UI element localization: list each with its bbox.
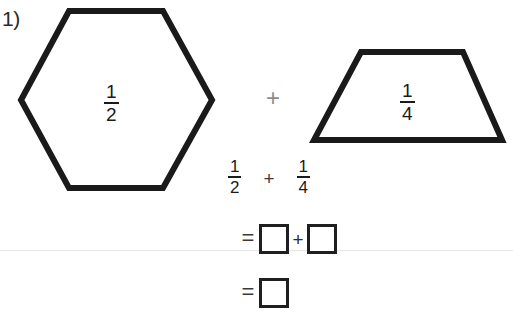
shape-plus-sign: + bbox=[266, 86, 280, 110]
answer-box-3[interactable] bbox=[259, 278, 289, 308]
worksheet-page: 1) 1 2 + 1 4 1 2 + 1 4 = + bbox=[0, 0, 513, 333]
equals-sign-2: = bbox=[239, 281, 257, 303]
equation-row: 1 2 + 1 4 bbox=[228, 158, 310, 196]
trapezoid-denominator: 4 bbox=[400, 101, 415, 123]
answer-box-2[interactable] bbox=[307, 224, 337, 254]
equation-left-denominator: 2 bbox=[228, 176, 241, 196]
equals-sign-1: = bbox=[239, 227, 257, 249]
equation-right-fraction: 1 4 bbox=[297, 158, 310, 196]
trapezoid-numerator: 1 bbox=[400, 81, 415, 101]
hexagon-denominator: 2 bbox=[104, 102, 119, 124]
hexagon-icon bbox=[14, 2, 226, 198]
hexagon-numerator: 1 bbox=[104, 82, 119, 102]
answer-box-1[interactable] bbox=[259, 224, 289, 254]
equation-left-numerator: 1 bbox=[228, 158, 241, 176]
trapezoid-fraction-label: 1 4 bbox=[400, 81, 415, 123]
answer-row-1: = + bbox=[239, 224, 337, 254]
hexagon-fraction-label: 1 2 bbox=[104, 82, 119, 124]
equation-right-numerator: 1 bbox=[297, 158, 310, 176]
equation-left-fraction: 1 2 bbox=[228, 158, 241, 196]
equation-right-denominator: 4 bbox=[297, 176, 310, 196]
equation-plus-sign: + bbox=[263, 169, 274, 188]
answer-row-1-plus-sign: + bbox=[291, 230, 305, 249]
hexagon-shape bbox=[14, 2, 226, 198]
answer-row-2: = bbox=[239, 278, 289, 308]
